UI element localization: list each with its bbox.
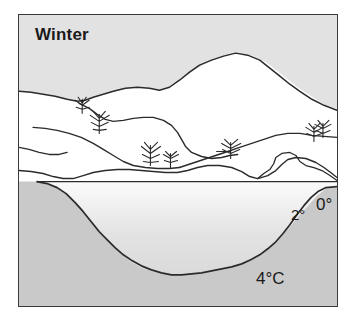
figure-frame: Winter 2° 0° 4°C	[18, 14, 338, 307]
winter-lake-cross-section-illustration	[19, 15, 337, 306]
figure-root: Winter 2° 0° 4°C	[0, 0, 350, 321]
